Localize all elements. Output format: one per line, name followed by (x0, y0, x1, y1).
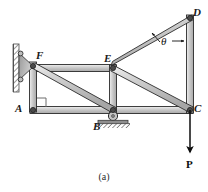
figure-caption: (a) (0, 172, 208, 182)
member-AB (30, 107, 113, 114)
truss-diagram-svg (0, 0, 208, 192)
joint-label-A: A (15, 103, 22, 114)
member-DC (187, 15, 194, 113)
joint-label-B: B (93, 121, 100, 132)
member-ED (111, 15, 193, 66)
member-EC (111, 66, 194, 112)
truss-figure: D F E A B C θ P (a) (0, 0, 208, 192)
joint-pin-F (30, 63, 35, 68)
joint-pin-B (110, 107, 115, 112)
bolt-top (18, 51, 23, 56)
joint-label-F: F (36, 50, 43, 61)
bolt-bottom (18, 77, 23, 82)
right-angle-marker-A (37, 98, 46, 107)
joint-label-C: C (194, 103, 201, 114)
joint-pin-E (110, 65, 115, 70)
roller-hub (112, 115, 115, 118)
joint-label-D: D (193, 7, 201, 18)
angle-theta-label: θ (161, 36, 166, 47)
joint-pin-A (30, 107, 35, 112)
joint-label-E: E (104, 53, 111, 64)
joint-pin-D (187, 15, 192, 20)
truss-members (30, 15, 194, 114)
ground-hatching (96, 123, 130, 128)
load-label-P: P (186, 159, 193, 170)
